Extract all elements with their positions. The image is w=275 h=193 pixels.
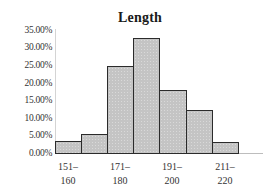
x-tick-171-180: 171– 180 — [105, 160, 135, 188]
y-tick-10: 10.00% — [0, 113, 52, 123]
y-tick-0: 0.00% — [0, 148, 52, 158]
bar-191-200 — [159, 90, 187, 154]
x-tick-151-160: 151– 160 — [53, 160, 83, 188]
bar-211-220 — [212, 142, 239, 154]
bar-151-160 — [55, 141, 82, 154]
bar-171-180 — [107, 66, 134, 154]
y-axis-line — [55, 29, 56, 153]
chart-title: Length — [0, 10, 275, 26]
y-tick-30: 30.00% — [0, 42, 52, 52]
bar-161-170 — [81, 134, 108, 154]
x-tick-191-200: 191– 200 — [157, 160, 187, 188]
bar-201-210 — [186, 110, 213, 154]
x-tick-211-220: 211– 220 — [210, 160, 240, 188]
y-tick-15: 15.00% — [0, 95, 52, 105]
y-tick-25: 25.00% — [0, 60, 52, 70]
bar-181-190 — [133, 38, 160, 154]
y-tick-35: 35.00% — [0, 25, 52, 35]
y-tick-5: 5.00% — [0, 130, 52, 140]
y-tick-20: 20.00% — [0, 78, 52, 88]
